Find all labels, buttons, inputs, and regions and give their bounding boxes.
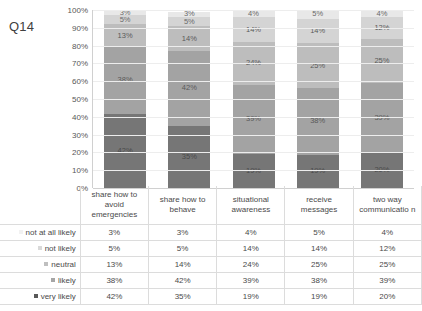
table-cell: 39%: [217, 273, 285, 289]
legend-swatch-icon: [38, 246, 42, 250]
gridline: [93, 117, 414, 118]
table-cell: 38%: [285, 273, 353, 289]
table-cell: 20%: [353, 289, 421, 305]
table-row: not at all likely3%3%4%5%4%: [0, 225, 422, 241]
legend-swatch-icon: [34, 294, 38, 298]
legend-label: likely: [58, 276, 76, 285]
bar-segment[interactable]: 5%: [168, 17, 210, 26]
chart-page: Q14 100%90%80%70%60%50%40%30%20%10%0% 3%…: [0, 0, 422, 311]
bar-segment[interactable]: 19%: [297, 155, 339, 188]
legend-entry[interactable]: not likely: [0, 241, 80, 257]
table-cell: 19%: [285, 289, 353, 305]
data-table-wrapper: share how to avoid emergenciesshare how …: [0, 186, 422, 305]
legend-label: neutral: [51, 260, 75, 269]
table-cell: 13%: [80, 257, 148, 273]
table-cell: 5%: [149, 241, 217, 257]
gridline: [93, 46, 414, 47]
bar-segment[interactable]: 14%: [233, 17, 275, 42]
table-header-row: share how to avoid emergenciesshare how …: [0, 186, 422, 225]
legend-swatch-icon: [44, 262, 48, 266]
bar-segment[interactable]: 14%: [297, 19, 339, 44]
y-axis-tick-label: 80%: [58, 41, 88, 50]
bar-segment-label: 38%: [310, 117, 325, 125]
legend-swatch-icon: [51, 278, 55, 282]
legend-label: not at all likely: [26, 228, 76, 237]
table-column-header: two way communicatio n: [353, 186, 421, 225]
gridline: [93, 28, 414, 29]
table-cell: 19%: [217, 289, 285, 305]
table-cell: 4%: [353, 225, 421, 241]
bar-segment-label: 42%: [118, 147, 133, 155]
table-cell: 38%: [80, 273, 148, 289]
bar-segment[interactable]: 4%: [361, 10, 403, 17]
gridline: [93, 170, 414, 171]
legend-swatch-icon: [19, 230, 23, 234]
plot-canvas: 3%5%13%38%42%3%5%14%42%35%4%14%24%39%19%…: [92, 10, 414, 188]
table-column-header: receive messages: [285, 186, 353, 225]
table-cell: 14%: [149, 257, 217, 273]
table-row: not likely5%5%14%14%12%: [0, 241, 422, 257]
legend-entry[interactable]: not at all likely: [0, 225, 80, 241]
legend-label: very likely: [41, 292, 76, 301]
table-cell: 12%: [353, 241, 421, 257]
chart-plot-area: 100%90%80%70%60%50%40%30%20%10%0% 3%5%13…: [58, 10, 414, 188]
table-cell: 14%: [217, 241, 285, 257]
gridline: [93, 10, 414, 11]
legend-entry[interactable]: likely: [0, 273, 80, 289]
y-axis-tick-label: 20%: [58, 148, 88, 157]
bar-segment-label: 5%: [312, 11, 323, 19]
table-corner-cell: [0, 186, 80, 225]
table-cell: 25%: [353, 257, 421, 273]
legend-label: not likely: [45, 244, 76, 253]
bar-segment[interactable]: 42%: [168, 51, 210, 126]
y-axis: 100%90%80%70%60%50%40%30%20%10%0%: [58, 10, 88, 188]
y-axis-tick-label: 40%: [58, 112, 88, 121]
y-axis-tick-label: 10%: [58, 166, 88, 175]
gridline: [93, 152, 414, 153]
y-axis-tick-label: 60%: [58, 77, 88, 86]
table-cell: 4%: [217, 225, 285, 241]
bar-segment[interactable]: 38%: [297, 88, 339, 155]
table-cell: 42%: [149, 273, 217, 289]
bar-segment-label: 14%: [182, 35, 197, 43]
gridline: [93, 135, 414, 136]
gridline: [93, 63, 414, 64]
table-row: neutral13%14%24%25%25%: [0, 257, 422, 273]
table-column-header: situational awareness: [217, 186, 285, 225]
table-cell: 14%: [285, 241, 353, 257]
bar-segment-label: 5%: [120, 16, 131, 24]
bar-segment-label: 19%: [310, 168, 325, 176]
table-cell: 24%: [217, 257, 285, 273]
legend-entry[interactable]: very likely: [0, 289, 80, 305]
y-axis-tick-label: 50%: [58, 95, 88, 104]
table-cell: 35%: [149, 289, 217, 305]
bar-segment[interactable]: 5%: [297, 10, 339, 19]
data-table: share how to avoid emergenciesshare how …: [0, 186, 422, 305]
gridline: [93, 99, 414, 100]
y-axis-tick-label: 30%: [58, 130, 88, 139]
bar-segment[interactable]: 42%: [104, 114, 146, 188]
page-title: Q14: [9, 19, 34, 34]
table-row: likely38%42%39%38%39%: [0, 273, 422, 289]
table-cell: 3%: [80, 225, 148, 241]
table-row: very likely42%35%19%19%20%: [0, 289, 422, 305]
bar-segment[interactable]: 4%: [233, 10, 275, 17]
table-cell: 5%: [80, 241, 148, 257]
legend-entry[interactable]: neutral: [0, 257, 80, 273]
bar-segment[interactable]: 5%: [104, 15, 146, 24]
table-cell: 5%: [285, 225, 353, 241]
bar-segment-label: 13%: [118, 32, 133, 40]
table-cell: 3%: [149, 225, 217, 241]
bar-segment-label: 5%: [184, 18, 195, 26]
table-column-header: share how to behave: [149, 186, 217, 225]
bar-segment[interactable]: 14%: [168, 26, 210, 51]
bar-segment[interactable]: 39%: [233, 85, 275, 154]
table-column-header: share how to avoid emergencies: [80, 186, 148, 225]
data-table-body: share how to avoid emergenciesshare how …: [0, 186, 422, 305]
y-axis-tick-label: 100%: [58, 6, 88, 15]
y-axis-tick-label: 90%: [58, 23, 88, 32]
gridline: [93, 81, 414, 82]
table-cell: 39%: [353, 273, 421, 289]
y-axis-tick-label: 70%: [58, 59, 88, 68]
bar-segment-label: 35%: [182, 153, 197, 161]
